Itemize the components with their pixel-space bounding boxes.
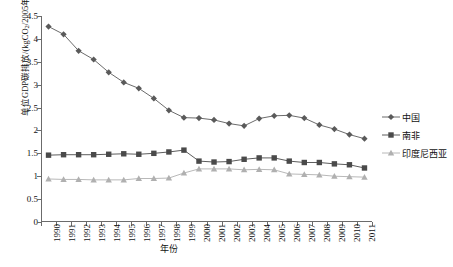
legend-label: 印度尼西亚 bbox=[402, 147, 447, 160]
x-tick-label: 2001 bbox=[218, 224, 227, 242]
y-tick-mark bbox=[37, 130, 41, 131]
y-tick-mark bbox=[37, 16, 41, 17]
data-point-marker bbox=[91, 152, 96, 157]
x-tick-label: 2006 bbox=[293, 224, 302, 242]
data-point-marker bbox=[45, 23, 51, 29]
x-tick-label: 2011 bbox=[368, 224, 377, 242]
data-point-marker bbox=[301, 115, 307, 121]
data-point-marker bbox=[136, 152, 141, 157]
y-tick-label: 0.5 bbox=[14, 195, 38, 204]
data-point-marker bbox=[76, 152, 81, 157]
data-point-marker bbox=[272, 155, 277, 160]
data-point-marker bbox=[226, 120, 232, 126]
data-point-marker bbox=[271, 113, 277, 119]
data-point-marker bbox=[346, 131, 352, 137]
plot-area bbox=[41, 16, 372, 222]
data-point-marker bbox=[166, 149, 171, 154]
data-point-marker bbox=[136, 85, 142, 91]
y-tick-mark bbox=[37, 39, 41, 40]
data-point-marker bbox=[181, 115, 187, 121]
data-point-marker bbox=[316, 122, 322, 128]
data-point-marker bbox=[332, 161, 337, 166]
x-tick-label: 1999 bbox=[188, 224, 197, 242]
series-1 bbox=[45, 23, 367, 141]
x-tick-label: 2010 bbox=[353, 224, 362, 242]
y-tick-mark bbox=[37, 85, 41, 86]
x-tick-label: 1991 bbox=[68, 224, 77, 242]
data-point-marker bbox=[181, 147, 186, 152]
data-point-marker bbox=[256, 115, 262, 121]
data-point-marker bbox=[211, 117, 217, 123]
carbon-intensity-line-chart: 单位GDP碳排放/(kgCO2/2005年美元) 00.511.522.533.… bbox=[0, 0, 453, 267]
x-tick-label: 2002 bbox=[233, 224, 242, 242]
x-tick-label: 2000 bbox=[203, 224, 212, 242]
data-point-marker bbox=[302, 160, 307, 165]
x-tick-label: 2003 bbox=[248, 224, 257, 242]
y-axis-tick-labels: 00.511.522.533.544.5 bbox=[12, 0, 38, 267]
data-point-marker bbox=[121, 79, 127, 85]
triangle-marker-icon bbox=[381, 147, 401, 159]
legend-item-1[interactable]: 中国 bbox=[381, 108, 453, 126]
y-tick-label: 3 bbox=[14, 80, 38, 89]
data-point-marker bbox=[241, 123, 247, 129]
data-point-marker bbox=[362, 165, 367, 170]
data-point-marker bbox=[196, 158, 201, 163]
x-tick-label: 1990 bbox=[53, 224, 62, 242]
series-line bbox=[49, 27, 365, 139]
legend-item-2[interactable]: 南非 bbox=[381, 126, 453, 144]
series-3 bbox=[45, 166, 367, 183]
y-tick-label: 1 bbox=[14, 172, 38, 181]
data-point-marker bbox=[388, 132, 393, 137]
data-point-marker bbox=[241, 157, 246, 162]
data-point-marker bbox=[287, 158, 292, 163]
y-tick-label: 3.5 bbox=[14, 57, 38, 66]
data-point-marker bbox=[347, 162, 352, 167]
x-axis-title: 年份 bbox=[160, 242, 178, 255]
y-tick-label: 1.5 bbox=[14, 149, 38, 158]
data-point-marker bbox=[106, 152, 111, 157]
data-point-marker bbox=[121, 151, 126, 156]
data-point-marker bbox=[211, 159, 216, 164]
series-2 bbox=[46, 147, 367, 170]
data-point-marker bbox=[151, 151, 156, 156]
square-marker-icon bbox=[381, 129, 401, 141]
x-tick-label: 2007 bbox=[308, 224, 317, 242]
y-tick-mark bbox=[37, 108, 41, 109]
legend-label: 中国 bbox=[402, 111, 420, 124]
data-point-marker bbox=[286, 112, 292, 118]
y-tick-mark bbox=[37, 62, 41, 63]
y-tick-label: 4.5 bbox=[14, 12, 38, 21]
data-point-marker bbox=[256, 155, 261, 160]
x-axis-tick-labels: 1990199119921993199419951996199719981999… bbox=[41, 224, 372, 258]
y-tick-mark bbox=[37, 199, 41, 200]
x-tick-label: 1993 bbox=[98, 224, 107, 242]
legend-label: 南非 bbox=[402, 129, 420, 142]
x-tick-label: 2004 bbox=[263, 224, 272, 242]
x-tick-label: 1994 bbox=[113, 224, 122, 242]
diamond-marker-icon bbox=[381, 111, 401, 123]
y-tick-label: 2 bbox=[14, 126, 38, 135]
y-tick-label: 0 bbox=[14, 218, 38, 227]
y-tick-mark bbox=[37, 176, 41, 177]
x-tick-label: 1996 bbox=[143, 224, 152, 242]
legend-item-3[interactable]: 印度尼西亚 bbox=[381, 144, 453, 162]
data-point-marker bbox=[46, 152, 51, 157]
y-tick-label: 2.5 bbox=[14, 103, 38, 112]
data-point-marker bbox=[226, 159, 231, 164]
data-point-marker bbox=[61, 152, 66, 157]
x-tick-label: 1997 bbox=[158, 224, 167, 242]
x-tick-label: 2005 bbox=[278, 224, 287, 242]
x-tick-label: 2009 bbox=[338, 224, 347, 242]
data-point-marker bbox=[196, 115, 202, 121]
chart-legend: 中国南非印度尼西亚 bbox=[381, 108, 453, 162]
x-tick-label: 1995 bbox=[128, 224, 137, 242]
series-container bbox=[41, 16, 372, 222]
x-tick-label: 1998 bbox=[173, 224, 182, 242]
data-point-marker bbox=[317, 160, 322, 165]
y-tick-label: 4 bbox=[14, 34, 38, 43]
x-tick-label: 1992 bbox=[83, 224, 92, 242]
data-point-marker bbox=[388, 114, 394, 120]
y-tick-mark bbox=[37, 153, 41, 154]
x-tick-label: 2008 bbox=[323, 224, 332, 242]
data-point-marker bbox=[361, 136, 367, 142]
